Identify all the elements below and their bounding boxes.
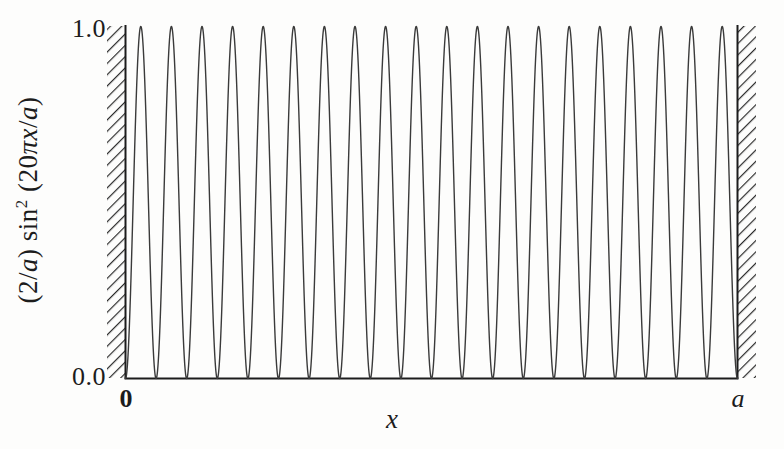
plot-area bbox=[0, 0, 784, 449]
figure-container: (2/a) sin2 (20πx/a) 1.0 0.0 0 a x bbox=[0, 0, 784, 449]
right-wall-hatching bbox=[738, 26, 756, 378]
probability-density-curve bbox=[126, 27, 738, 379]
left-wall-hatching bbox=[107, 26, 125, 378]
